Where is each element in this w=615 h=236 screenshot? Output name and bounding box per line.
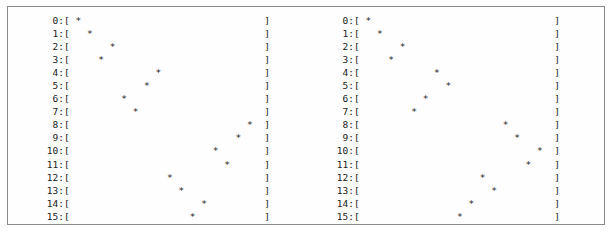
row-track: [ * ] [354,171,560,184]
row-track: [ * ] [64,14,270,27]
row-cells: * [70,184,264,197]
row-index-label: 8: [298,118,354,131]
table-row: 11:[ * ] [298,158,588,171]
row-track: [ * ] [64,79,270,92]
table-row: 2:[ * ] [8,40,298,53]
row-track: [ * ] [64,171,270,184]
row-cells: * [360,66,554,79]
bracket-close: ] [554,80,560,91]
row-cells: * [70,66,264,79]
table-row: 8:[ * ] [8,118,298,131]
row-index-label: 15: [8,210,64,223]
row-index-label: 3: [8,53,64,66]
row-cells: * [70,27,264,40]
table-row: 0:[ * ] [8,14,298,27]
table-row: 15:[ * ] [8,210,298,223]
bracket-close: ] [554,145,560,156]
row-index-label: 4: [8,66,64,79]
row-track: [ * ] [354,40,560,53]
row-index-label: 14: [298,197,354,210]
row-track: [ * ] [354,105,560,118]
row-cells: * [360,14,554,27]
table-row: 9:[ * ] [298,131,588,144]
row-cells: * [70,14,264,27]
row-cells: * [360,79,554,92]
table-row: 8:[ * ] [298,118,588,131]
figure-frame: 0:[ * ]1:[ * ]2:[ * ]3:[ * ]4:[ * ]5:[ [7,6,605,225]
table-row: 12:[ * ] [8,171,298,184]
row-cells: * [70,158,264,171]
row-track: [ * ] [64,131,270,144]
bracket-close: ] [554,106,560,117]
row-cells: * [70,171,264,184]
bracket-close: ] [554,54,560,65]
row-cells: * [360,158,554,171]
row-cells: * [70,105,264,118]
row-track: [ * ] [354,131,560,144]
row-cells: * [360,210,554,223]
row-track: [ * ] [64,144,270,157]
row-index-label: 10: [8,144,64,157]
row-index-label: 13: [8,184,64,197]
bracket-close: ] [264,132,270,143]
bracket-close: ] [554,93,560,104]
row-cells: * [70,197,264,210]
row-track: [ * ] [64,118,270,131]
row-track: [ * ] [64,184,270,197]
panel-container: 0:[ * ]1:[ * ]2:[ * ]3:[ * ]4:[ * ]5:[ [8,7,604,224]
bracket-close: ] [264,185,270,196]
row-cells: * [360,197,554,210]
row-track: [ * ] [354,184,560,197]
row-cells: * [70,131,264,144]
row-index-label: 7: [8,105,64,118]
row-index-label: 11: [8,158,64,171]
bracket-close: ] [554,198,560,209]
row-cells: * [70,92,264,105]
row-track: [ * ] [354,66,560,79]
bracket-close: ] [264,28,270,39]
bracket-close: ] [554,119,560,130]
row-cells: * [360,53,554,66]
bracket-close: ] [264,211,270,222]
table-row: 3:[ * ] [298,53,588,66]
row-index-label: 0: [8,14,64,27]
right-panel: 0:[ * ]1:[ * ]2:[ * ]3:[ * ]4:[ * ]5:[ [298,7,588,224]
bracket-close: ] [264,159,270,170]
row-cells: * [360,92,554,105]
bracket-close: ] [554,67,560,78]
table-row: 6:[ * ] [298,92,588,105]
row-cells: * [70,79,264,92]
row-index-label: 9: [298,131,354,144]
bracket-close: ] [264,15,270,26]
row-index-label: 2: [298,40,354,53]
bracket-close: ] [264,41,270,52]
bracket-close: ] [264,198,270,209]
row-cells: * [70,144,264,157]
left-panel: 0:[ * ]1:[ * ]2:[ * ]3:[ * ]4:[ * ]5:[ [8,7,298,224]
row-cells: * [360,184,554,197]
table-row: 5:[ * ] [298,79,588,92]
row-index-label: 5: [298,79,354,92]
bracket-close: ] [264,172,270,183]
row-cells: * [360,105,554,118]
row-track: [ * ] [354,158,560,171]
bracket-close: ] [554,28,560,39]
table-row: 10:[ * ] [298,144,588,157]
row-cells: * [70,53,264,66]
row-track: [ * ] [354,92,560,105]
row-index-label: 0: [298,14,354,27]
left-panel-rows: 0:[ * ]1:[ * ]2:[ * ]3:[ * ]4:[ * ]5:[ [8,14,298,223]
row-index-label: 13: [298,184,354,197]
row-index-label: 9: [8,131,64,144]
table-row: 6:[ * ] [8,92,298,105]
row-track: [ * ] [64,53,270,66]
row-cells: * [360,171,554,184]
bracket-close: ] [264,54,270,65]
bracket-close: ] [554,41,560,52]
bracket-close: ] [554,132,560,143]
row-cells: * [360,27,554,40]
table-row: 11:[ * ] [8,158,298,171]
row-index-label: 12: [8,171,64,184]
row-track: [ * ] [354,210,560,223]
bracket-close: ] [554,159,560,170]
